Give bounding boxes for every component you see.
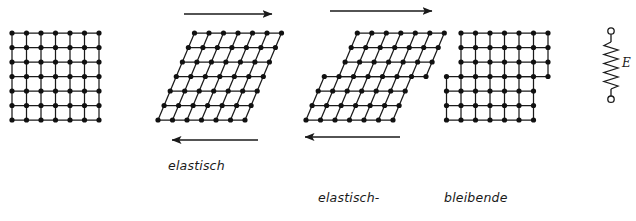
spring-modulus-label: E — [622, 56, 631, 70]
figure-canvas: elastisch elastisch- plastisch (Gleitung… — [0, 0, 636, 221]
caption-elastisch-plastisch: elastisch- plastisch (Gleitung) — [318, 158, 383, 221]
coil-spring-symbol — [604, 28, 618, 103]
lattice-grid-lines-lower — [447, 77, 534, 121]
lattice-grid-lines-lower — [306, 77, 411, 121]
caption-line-1: elastisch- — [318, 190, 383, 206]
lattice-grid-lines-upper — [461, 33, 548, 77]
lattice-atoms — [155, 30, 284, 122]
undeformed-lattice — [9, 30, 101, 122]
lattice-grid-lines-upper — [339, 33, 444, 77]
caption-bleibende-deformation: bleibende Deformation — [444, 158, 524, 221]
elastic-sheared-lattice — [155, 14, 284, 140]
elastic-plastic-slip-lattice — [303, 11, 447, 137]
caption-line-1: bleibende — [444, 190, 524, 206]
permanent-deformation-lattice — [444, 30, 551, 122]
caption-elastisch: elastisch — [168, 158, 225, 174]
